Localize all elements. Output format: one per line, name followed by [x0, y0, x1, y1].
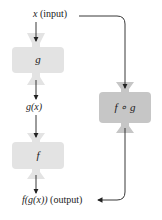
box-composite-label: f ∘ g	[99, 102, 151, 113]
input-label: x (input)	[33, 9, 67, 19]
input-variable: x	[33, 8, 37, 19]
arrow-composite-to-output	[98, 128, 125, 200]
input-text: (input)	[40, 8, 67, 19]
arrow-input-to-composite	[79, 16, 125, 88]
intermediate-label: g(x)	[26, 102, 42, 112]
output-label: f(g(x)) (output)	[22, 195, 82, 205]
output-text: (output)	[50, 194, 82, 205]
box-g-label: g	[12, 54, 64, 65]
box-f-label: f	[12, 150, 64, 161]
output-expression: f(g(x))	[22, 194, 48, 205]
